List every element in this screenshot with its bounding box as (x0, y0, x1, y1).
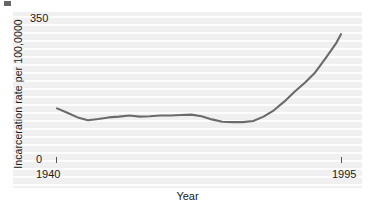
x-axis-tick-mark-right (341, 157, 342, 163)
x-axis-tick-label-1995: 1995 (332, 168, 356, 181)
x-axis-tick-mark-left (56, 157, 57, 163)
plot-panel (13, 12, 362, 188)
panel-scanline-texture (13, 12, 362, 188)
y-axis-tick-min: 0 (36, 153, 42, 166)
y-axis-tick-max: 350 (30, 12, 48, 25)
scan-artifact (4, 1, 11, 6)
chart-figure: Incarceration rate per 100,0000 350 0 19… (0, 0, 375, 213)
y-axis-label: Incarceration rate per 100,0000 (11, 14, 25, 174)
x-axis-tick-label-1940: 1940 (36, 168, 60, 181)
x-axis-label: Year (0, 190, 375, 203)
